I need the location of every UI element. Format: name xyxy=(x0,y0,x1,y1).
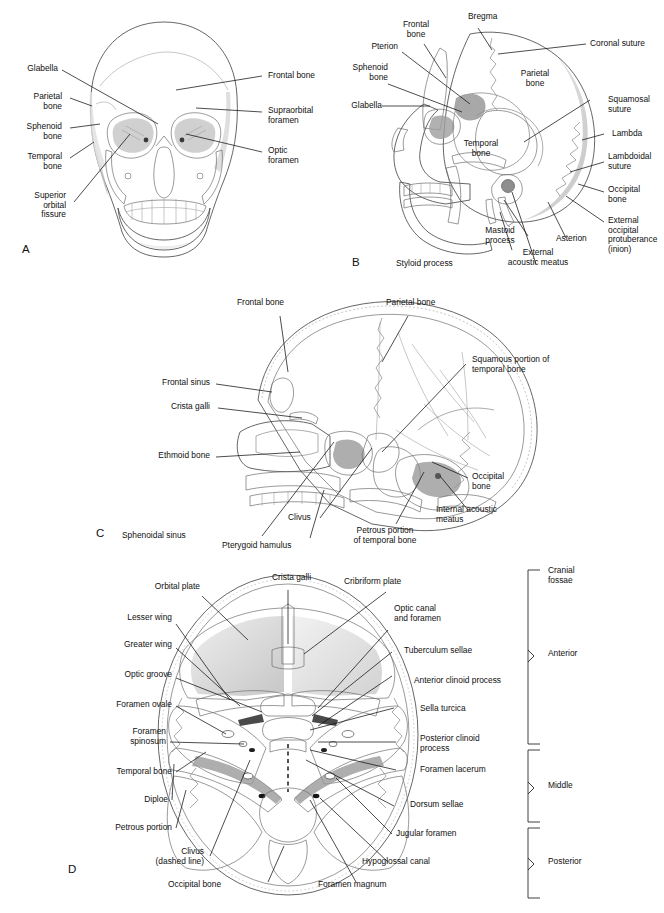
label-b-external-acoustic-meatus: External acoustic meatus xyxy=(496,248,580,267)
label-b-frontal-bone: Frontal bone xyxy=(394,20,438,39)
label-b-parietal-bone: Parietal bone xyxy=(513,69,557,88)
label-a-superior-orbital-fissure: Superior orbital fissure xyxy=(0,191,66,220)
label-a-optic-foramen: Optic foramen xyxy=(268,146,299,165)
label-a-supraorbital-foramen: Supraorbital foramen xyxy=(268,106,313,125)
label-c-squamous-portion-temporal-bone: Squamous portion of temporal bone xyxy=(472,355,549,374)
label-c-petrous-portion-temporal-bone: Petrous portion of temporal bone xyxy=(336,526,434,545)
label-d-crista-galli: Crista galli xyxy=(272,573,311,583)
label-d-tuberculum-sellae: Tuberculum sellae xyxy=(404,646,472,656)
label-d-cribriform-plate: Cribriform plate xyxy=(344,577,401,587)
label-d-diploe: Diploe xyxy=(96,795,168,805)
label-d-fossa-posterior: Posterior xyxy=(548,857,582,867)
label-d-optic-groove: Optic groove xyxy=(96,670,172,680)
panel-a-skull xyxy=(89,22,237,257)
panel-letter-c: C xyxy=(96,527,104,539)
label-d-clivus-dashed-line: Clivus (dashed line) xyxy=(96,847,204,866)
label-b-pterion: Pterion xyxy=(346,42,398,52)
label-b-sphenoid-bone: Sphenoid bone xyxy=(336,63,388,82)
label-d-hypoglossal-canal: Hypoglossal canal xyxy=(362,857,430,867)
label-d-dorsum-sellae: Dorsum sellae xyxy=(410,800,464,810)
label-a-sphenoid-bone: Sphenoid bone xyxy=(0,122,62,141)
label-b-coronal-suture: Coronal suture xyxy=(590,39,645,49)
label-c-occipital-bone: Occipital bone xyxy=(472,472,504,491)
panel-letter-d: D xyxy=(68,863,76,875)
label-d-cranial-fossae-header: Cranial fossae xyxy=(548,566,575,585)
label-d-orbital-plate: Orbital plate xyxy=(110,582,200,592)
cranial-fossae-brackets xyxy=(528,570,540,898)
label-d-jugular-foramen: Jugular foramen xyxy=(396,829,457,839)
label-c-ethmoid-bone: Ethmoid bone xyxy=(116,451,210,461)
label-c-clivus: Clivus xyxy=(288,513,311,523)
label-b-occipital-bone: Occipital bone xyxy=(608,185,640,204)
label-b-bregma: Bregma xyxy=(468,12,497,22)
label-b-squamosal-suture: Squamosal suture xyxy=(608,95,650,114)
label-d-sella-turcica: Sella turcica xyxy=(420,704,466,714)
label-d-posterior-clinoid-process: Posterior clinoid process xyxy=(420,734,480,753)
label-c-sphenoidal-sinus: Sphenoidal sinus xyxy=(122,531,186,541)
panel-c-leaders xyxy=(216,316,468,538)
label-d-foramen-ovale: Foramen ovale xyxy=(86,700,172,710)
label-a-temporal-bone: Temporal bone xyxy=(0,152,62,171)
label-b-lambdoidal-suture: Lambdoidal suture xyxy=(608,152,651,171)
label-d-fossa-middle: Middle xyxy=(548,781,573,791)
label-d-occipital-bone: Occipital bone xyxy=(168,880,221,890)
label-b-asterion: Asterion xyxy=(556,234,587,244)
label-d-foramen-lacerum: Foramen lacerum xyxy=(420,765,486,775)
label-d-petrous-portion: Petrous portion xyxy=(76,823,172,833)
panel-letter-a: A xyxy=(22,243,30,255)
label-d-lesser-wing: Lesser wing xyxy=(100,613,172,623)
label-a-parietal-bone: Parietal bone xyxy=(0,92,62,111)
label-b-mastoid-process: Mastoid process xyxy=(476,226,524,245)
panel-letter-b: B xyxy=(352,256,360,268)
label-a-frontal-bone: Frontal bone xyxy=(268,71,315,81)
label-d-foramen-spinosum: Foramen spinosum xyxy=(96,727,166,746)
label-b-external-occipital-protuberance: External occipital protuberance (inion) xyxy=(608,216,657,254)
label-a-glabella: Glabella xyxy=(0,64,58,74)
label-c-parietal-bone: Parietal bone xyxy=(386,298,435,308)
label-b-lambda: Lambda xyxy=(612,129,642,139)
figure-skull-plate: A Glabella Parietal bone Sphenoid bone T… xyxy=(0,0,664,913)
label-b-styloid-process: Styloid process xyxy=(396,259,453,269)
label-b-glabella: Glabella xyxy=(330,101,382,111)
label-c-frontal-bone: Frontal bone xyxy=(237,298,284,308)
label-d-anterior-clinoid-process: Anterior clinoid process xyxy=(414,676,501,686)
label-c-internal-acoustic-meatus: Internal acoustic meatus xyxy=(436,505,497,524)
label-d-temporal-bone: Temporal bone xyxy=(76,767,172,777)
label-d-optic-canal-and-foramen: Optic canal and foramen xyxy=(394,604,441,623)
label-c-pterygoid-hamulus: Pterygoid hamulus xyxy=(222,541,291,551)
panel-c-skull xyxy=(237,302,537,531)
label-d-foramen-magnum: Foramen magnum xyxy=(318,880,386,890)
label-d-greater-wing: Greater wing xyxy=(96,640,172,650)
label-c-frontal-sinus: Frontal sinus xyxy=(126,378,210,388)
label-d-fossa-anterior: Anterior xyxy=(548,649,577,659)
label-c-crista-galli: Crista galli xyxy=(126,402,210,412)
label-b-temporal-bone: Temporal bone xyxy=(458,139,504,158)
